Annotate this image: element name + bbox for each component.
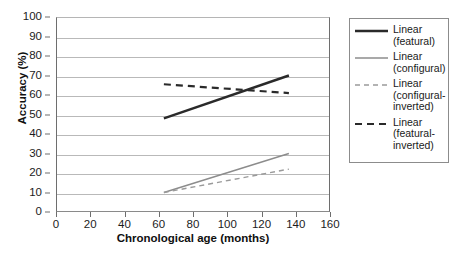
x-tick-label: 100 <box>218 219 237 231</box>
y-tick-label: 80 <box>29 50 42 62</box>
y-tick-mark <box>45 95 50 96</box>
x-tick-mark <box>193 212 194 217</box>
chart-figure: 0102030405060708090100 Accuracy (%) 0204… <box>0 0 454 262</box>
x-tick-mark <box>262 212 263 217</box>
y-tick-mark <box>45 36 50 37</box>
legend-swatch-line-icon <box>355 51 388 64</box>
x-tick-label: 140 <box>286 219 305 231</box>
y-tick-label: 10 <box>29 187 42 199</box>
legend-item: Linear (configural- inverted) <box>355 78 444 113</box>
y-tick-label: 20 <box>29 167 42 179</box>
legend-item: Linear (featural) <box>355 24 444 47</box>
x-tick-mark <box>330 212 331 217</box>
series-line-0 <box>164 76 289 119</box>
legend-label: Linear (configural- inverted) <box>393 78 446 113</box>
legend-swatch-line-icon <box>355 78 388 91</box>
y-tick-mark <box>45 153 50 154</box>
y-tick-label: 0 <box>36 206 42 218</box>
legend-item: Linear (configural) <box>355 51 444 74</box>
legend-label: Linear (featural) <box>393 24 435 47</box>
y-tick-label: 60 <box>29 89 42 101</box>
legend-label: Linear (featural- inverted) <box>393 117 435 152</box>
series-line-3 <box>164 84 289 93</box>
y-tick-mark <box>45 75 50 76</box>
y-tick-mark <box>45 173 50 174</box>
y-tick-label: 30 <box>29 148 42 160</box>
x-tick-label: 160 <box>320 219 339 231</box>
x-tick-label: 0 <box>53 219 59 231</box>
x-tick-label: 80 <box>187 219 200 231</box>
y-tick-mark <box>45 134 50 135</box>
y-tick-label: 40 <box>29 128 42 140</box>
y-tick-mark <box>45 17 50 18</box>
legend-swatch-line-icon <box>355 117 388 130</box>
x-tick-label: 60 <box>152 219 165 231</box>
y-tick-mark <box>45 56 50 57</box>
x-tick-mark <box>90 212 91 217</box>
y-tick-label: 90 <box>29 31 42 43</box>
x-tick-mark <box>227 212 228 217</box>
x-tick-label: 120 <box>252 219 271 231</box>
x-tick-mark <box>296 212 297 217</box>
legend-label: Linear (configural) <box>393 51 446 74</box>
legend-swatch-line-icon <box>355 24 388 37</box>
y-tick-label: 70 <box>29 70 42 82</box>
x-tick-mark <box>125 212 126 217</box>
x-tick-label: 20 <box>84 219 97 231</box>
x-tick-mark <box>159 212 160 217</box>
y-tick-mark <box>45 212 50 213</box>
x-tick-mark <box>56 212 57 217</box>
x-tick-label: 40 <box>118 219 131 231</box>
legend-item: Linear (featural- inverted) <box>355 117 444 152</box>
series-layer <box>56 17 330 212</box>
y-tick-label: 50 <box>29 109 42 121</box>
y-tick-mark <box>45 114 50 115</box>
legend: Linear (featural)Linear (configural)Line… <box>349 18 449 163</box>
y-tick-label: 100 <box>23 11 42 23</box>
y-tick-mark <box>45 192 50 193</box>
x-axis-title: Chronological age (months) <box>56 232 330 244</box>
x-axis: 020406080100120140160 <box>56 212 330 234</box>
y-axis-title: Accuracy (%) <box>16 28 28 148</box>
